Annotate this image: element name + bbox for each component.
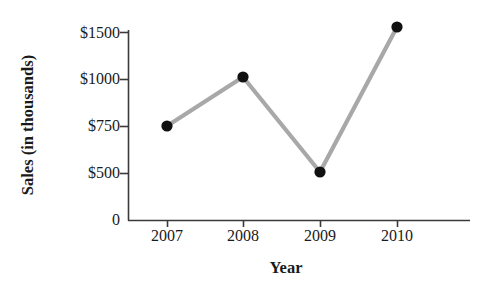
- plot-area: [0, 0, 492, 290]
- data-point-2008[interactable]: [237, 71, 248, 82]
- data-point-2010[interactable]: [391, 21, 402, 32]
- data-point-markers: [161, 21, 402, 177]
- line-chart: Sales (in thousands) $1500 $1000 $750 $5…: [0, 0, 492, 290]
- data-line-sales: [167, 27, 397, 172]
- data-point-2009[interactable]: [314, 166, 325, 177]
- data-point-2007[interactable]: [161, 120, 172, 131]
- y-axis-ticks: [120, 33, 128, 174]
